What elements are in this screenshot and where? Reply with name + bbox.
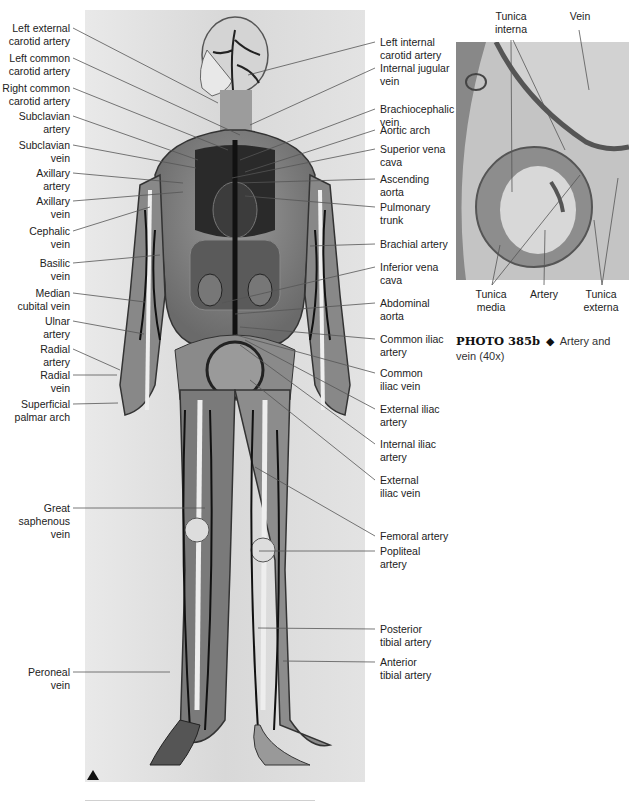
- label-axillary-artery: Axillary artery: [36, 167, 70, 193]
- body-model-illustration: [85, 10, 365, 782]
- label-right-common-carotid-artery: Right common carotid artery: [2, 82, 70, 108]
- label-pulmonary-trunk: Pulmonary trunk: [380, 201, 430, 227]
- label-superficial-palmar-arch: Superficial palmar arch: [15, 398, 70, 424]
- cardiovascular-model-photo: [85, 10, 365, 782]
- label-inferior-vena-cava: Inferior vena cava: [380, 261, 438, 287]
- label-popliteal-artery: Popliteal artery: [380, 545, 420, 571]
- label-superior-vena-cava: Superior vena cava: [380, 143, 445, 169]
- label-tunica-media: Tunica media: [461, 288, 521, 314]
- label-peroneal-vein: Peroneal vein: [28, 666, 70, 692]
- label-cephalic-vein: Cephalic vein: [29, 225, 70, 251]
- label-femoral-artery: Femoral artery: [380, 530, 448, 543]
- label-tunica-externa: Tunica externa: [571, 288, 629, 314]
- label-radial-artery: Radial artery: [40, 343, 70, 369]
- artery-vein-micrograph: [456, 42, 629, 280]
- diamond-icon: ◆: [546, 335, 554, 347]
- label-great-saphenous-vein: Great saphenous vein: [19, 502, 70, 541]
- photo-caption: PHOTO 385b ◆ Artery and vein (40x): [456, 334, 629, 364]
- label-common-iliac-vein: Common iliac vein: [380, 367, 423, 393]
- label-anterior-tibial-artery: Anterior tibial artery: [380, 656, 431, 682]
- label-left-internal-carotid-artery: Left internal carotid artery: [380, 36, 441, 62]
- page-divider: [85, 800, 315, 801]
- label-radial-vein: Radial vein: [40, 369, 70, 395]
- label-common-iliac-artery: Common iliac artery: [380, 333, 444, 359]
- label-ascending-aorta: Ascending aorta: [380, 173, 429, 199]
- label-internal-iliac-artery: Internal iliac artery: [380, 438, 436, 464]
- label-axillary-vein: Axillary vein: [36, 195, 70, 221]
- label-abdominal-aorta: Abdominal aorta: [380, 297, 430, 323]
- label-ulnar-artery: Ulnar artery: [43, 315, 70, 341]
- label-left-external-carotid-artery: Left external carotid artery: [9, 22, 70, 48]
- label-subclavian-artery: Subclavian artery: [19, 110, 70, 136]
- label-median-cubital-vein: Median cubital vein: [17, 287, 70, 313]
- label-brachial-artery: Brachial artery: [380, 238, 448, 251]
- label-external-iliac-vein: External iliac vein: [380, 474, 420, 500]
- photo-number: PHOTO 385b: [456, 334, 540, 348]
- label-internal-jugular-vein: Internal jugular vein: [380, 62, 449, 88]
- label-tunica-interna: Tunica interna: [476, 10, 546, 36]
- label-artery: Artery: [524, 288, 564, 301]
- label-left-common-carotid-artery: Left common carotid artery: [9, 52, 70, 78]
- label-basilic-vein: Basilic vein: [40, 257, 70, 283]
- label-subclavian-vein: Subclavian vein: [19, 139, 70, 165]
- micrograph-image: [456, 42, 629, 280]
- label-vein: Vein: [560, 10, 600, 23]
- label-external-iliac-artery: External iliac artery: [380, 403, 440, 429]
- label-posterior-tibial-artery: Posterior tibial artery: [380, 623, 431, 649]
- label-aortic-arch: Aortic arch: [380, 124, 430, 137]
